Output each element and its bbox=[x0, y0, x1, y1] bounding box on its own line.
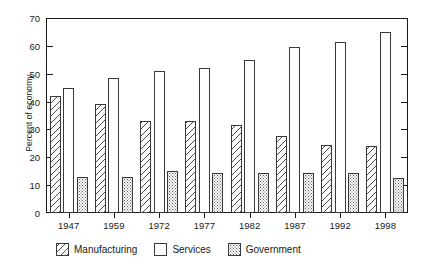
x-axis-tick-mark bbox=[295, 213, 296, 218]
y-axis-tick-label: 20 bbox=[0, 152, 40, 163]
x-axis-tick-mark bbox=[69, 213, 70, 218]
legend-item-government[interactable]: Government bbox=[228, 243, 301, 256]
bar-services-1987 bbox=[289, 47, 300, 213]
bar-government-1992 bbox=[348, 173, 359, 213]
legend-swatch-government-icon bbox=[228, 243, 241, 256]
bar-manufacturing-1947 bbox=[50, 96, 61, 213]
legend-label: Government bbox=[246, 244, 301, 255]
bar-government-1972 bbox=[167, 171, 178, 213]
bar-group bbox=[50, 18, 88, 213]
bar-services-1959 bbox=[108, 78, 119, 213]
y-axis-tick-label: 0 bbox=[0, 208, 40, 219]
bar-manufacturing-1982 bbox=[231, 125, 242, 213]
bar-group bbox=[321, 18, 359, 213]
bar-group bbox=[185, 18, 223, 213]
legend-swatch-services-icon bbox=[154, 243, 167, 256]
bar-manufacturing-1998 bbox=[366, 146, 377, 213]
y-axis-tick-label: 30 bbox=[0, 124, 40, 135]
bar-group bbox=[276, 18, 314, 213]
y-axis-tick-label: 60 bbox=[0, 40, 40, 51]
bar-government-1947 bbox=[77, 177, 88, 213]
y-axis-tick-label: 40 bbox=[0, 96, 40, 107]
bar-services-1977 bbox=[199, 68, 210, 213]
x-axis-tick-mark bbox=[250, 213, 251, 218]
chart-legend: ManufacturingServicesGovernment bbox=[56, 243, 301, 256]
legend-item-services[interactable]: Services bbox=[154, 243, 210, 256]
bar-government-1982 bbox=[258, 173, 269, 213]
bar-chart: Percent of economy 010203040506070 19471… bbox=[0, 0, 425, 269]
x-axis-tick-mark bbox=[114, 213, 115, 218]
bar-group bbox=[231, 18, 269, 213]
bar-services-1972 bbox=[154, 71, 165, 213]
bar-manufacturing-1972 bbox=[140, 121, 151, 213]
bar-services-1992 bbox=[335, 42, 346, 213]
bar-services-1982 bbox=[244, 60, 255, 213]
x-axis-tick-mark bbox=[159, 213, 160, 218]
bar-group bbox=[366, 18, 404, 213]
bar-group bbox=[140, 18, 178, 213]
y-axis-tick-label: 50 bbox=[0, 68, 40, 79]
x-axis-tick-mark bbox=[340, 213, 341, 218]
bar-manufacturing-1987 bbox=[276, 136, 287, 213]
bar-manufacturing-1992 bbox=[321, 145, 332, 213]
bar-services-1947 bbox=[63, 88, 74, 213]
y-axis-tick-label: 10 bbox=[0, 180, 40, 191]
y-axis-title: Percent of economy bbox=[24, 28, 34, 198]
legend-label: Manufacturing bbox=[74, 244, 137, 255]
x-axis-tick-label: 1998 bbox=[355, 220, 415, 231]
bar-manufacturing-1977 bbox=[185, 121, 196, 213]
legend-swatch-manufacturing-icon bbox=[56, 243, 69, 256]
bars-layer bbox=[46, 18, 408, 213]
bar-services-1998 bbox=[380, 32, 391, 213]
x-axis-tick-mark bbox=[385, 213, 386, 218]
legend-label: Services bbox=[172, 244, 210, 255]
legend-item-manufacturing[interactable]: Manufacturing bbox=[56, 243, 137, 256]
x-axis-tick-mark bbox=[204, 213, 205, 218]
bar-government-1959 bbox=[122, 177, 133, 213]
bar-government-1977 bbox=[212, 173, 223, 213]
bar-government-1987 bbox=[303, 173, 314, 213]
bar-manufacturing-1959 bbox=[95, 104, 106, 213]
bar-group bbox=[95, 18, 133, 213]
bar-government-1998 bbox=[393, 178, 404, 213]
y-axis-tick-label: 70 bbox=[0, 13, 40, 24]
